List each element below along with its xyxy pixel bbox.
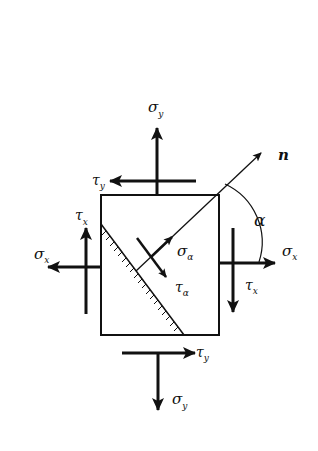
label-sigma-x-left: σx	[34, 245, 49, 265]
inclined-section	[101, 224, 184, 335]
label-tau-x-right: τx	[245, 277, 258, 296]
tau-alpha-arrow	[137, 238, 166, 277]
label-sigma-x-right: σx	[282, 242, 297, 262]
label-normal-n: n	[278, 146, 289, 164]
element-box	[101, 195, 219, 335]
stress-element-diagram: σy τy τx σx σx τx τy σy σα τα n α	[0, 0, 318, 451]
label-tau-y-bottom: τy	[196, 344, 210, 363]
label-sigma-y-bottom: σy	[172, 390, 188, 411]
label-tau-alpha: τα	[175, 279, 189, 298]
label-tau-y-top: τy	[92, 172, 106, 191]
label-tau-x-left: τx	[75, 207, 88, 227]
label-sigma-alpha: σα	[177, 242, 193, 262]
label-angle-alpha: α	[254, 210, 266, 230]
sigma-alpha-arrow	[151, 237, 172, 257]
label-sigma-y-top: σy	[148, 98, 164, 119]
